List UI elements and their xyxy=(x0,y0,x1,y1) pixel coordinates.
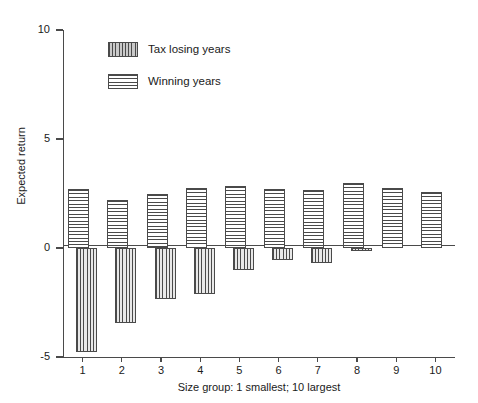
x-tick-label: 8 xyxy=(343,364,371,376)
x-tick-label: 10 xyxy=(421,364,449,376)
x-tick-mark xyxy=(356,357,357,362)
y-tick-mark xyxy=(56,29,63,30)
bar-tax-losing-years-8 xyxy=(351,248,372,251)
x-tick-mark xyxy=(200,357,201,362)
legend-label-winning-years: Winning years xyxy=(148,75,221,87)
x-tick-label: 4 xyxy=(186,364,214,376)
x-tick-mark xyxy=(239,357,240,362)
bar-winning-years-5 xyxy=(225,186,246,248)
expected-return-bar-chart: 1050-5 12345678910 Expected return Size … xyxy=(0,0,478,403)
bar-winning-years-7 xyxy=(303,190,324,248)
y-axis-title: Expected return xyxy=(15,116,27,216)
bar-tax-losing-years-2 xyxy=(115,248,136,323)
legend-swatch-winning-years xyxy=(108,74,138,89)
bar-tax-losing-years-5 xyxy=(233,248,254,270)
x-tick-label: 2 xyxy=(108,364,136,376)
x-tick-mark xyxy=(121,357,122,362)
bar-winning-years-3 xyxy=(147,194,168,249)
y-tick-label: 0 xyxy=(22,242,50,253)
bar-winning-years-8 xyxy=(343,183,364,248)
bar-winning-years-1 xyxy=(68,189,89,248)
bar-winning-years-10 xyxy=(421,192,442,248)
x-tick-label: 1 xyxy=(69,364,97,376)
bar-winning-years-2 xyxy=(107,200,128,248)
bar-winning-years-6 xyxy=(264,189,285,248)
x-tick-mark xyxy=(396,357,397,362)
legend-swatch-tax-losing-years xyxy=(108,42,138,57)
x-tick-mark xyxy=(317,357,318,362)
y-tick-label: 10 xyxy=(22,24,50,35)
x-tick-mark xyxy=(160,357,161,362)
x-tick-mark xyxy=(82,357,83,362)
chart-legend: Tax losing years Winning years xyxy=(108,38,230,102)
bar-winning-years-9 xyxy=(382,188,403,248)
x-tick-label: 7 xyxy=(304,364,332,376)
bar-winning-years-4 xyxy=(186,188,207,248)
bar-tax-losing-years-1 xyxy=(76,248,97,352)
x-tick-mark xyxy=(278,357,279,362)
x-tick-label: 9 xyxy=(382,364,410,376)
bar-tax-losing-years-7 xyxy=(311,248,332,263)
x-tick-label: 3 xyxy=(147,364,175,376)
y-tick-mark xyxy=(56,138,63,139)
y-tick-label: -5 xyxy=(22,351,50,362)
y-tick-mark xyxy=(56,247,63,248)
y-tick-mark xyxy=(56,356,63,357)
x-tick-label: 5 xyxy=(225,364,253,376)
bar-tax-losing-years-4 xyxy=(194,248,215,294)
y-axis-line xyxy=(63,30,64,358)
legend-label-tax-losing-years: Tax losing years xyxy=(148,43,230,55)
legend-item-winning-years: Winning years xyxy=(108,70,230,92)
bar-tax-losing-years-6 xyxy=(272,248,293,260)
x-tick-mark xyxy=(435,357,436,362)
bar-tax-losing-years-3 xyxy=(155,248,176,299)
x-axis-title: Size group: 1 smallest; 10 largest xyxy=(63,381,455,393)
x-tick-label: 6 xyxy=(265,364,293,376)
legend-item-tax-losing-years: Tax losing years xyxy=(108,38,230,60)
